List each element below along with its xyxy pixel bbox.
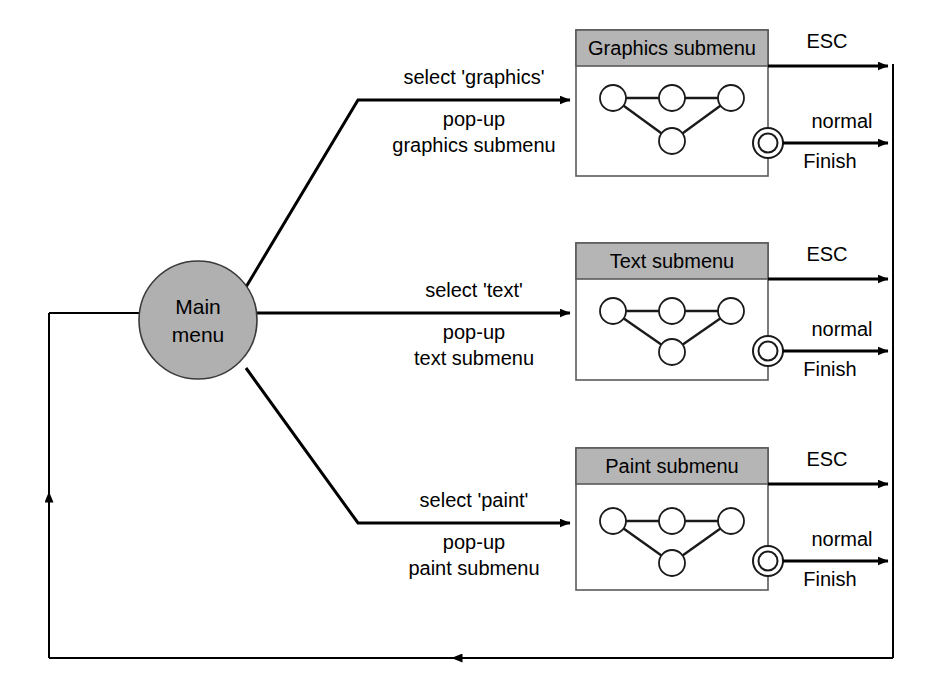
transition-trigger-graphics: select 'graphics' bbox=[403, 66, 544, 88]
inner-node-2 bbox=[659, 508, 685, 534]
normal-label-text: normal bbox=[811, 318, 872, 340]
transition-trigger-text: select 'text' bbox=[425, 279, 523, 301]
text-submenu-title: Text submenu bbox=[610, 250, 735, 272]
paint-submenu-title: Paint submenu bbox=[605, 455, 738, 477]
transition-action-paint-line1: pop-up bbox=[443, 531, 505, 553]
transition-line-graphics bbox=[246, 100, 570, 287]
diagram-canvas: select 'graphics' pop-up graphics submen… bbox=[0, 0, 938, 695]
transition-action-text-line1: pop-up bbox=[443, 321, 505, 343]
final-state-inner-text bbox=[759, 342, 778, 361]
finish-label-text: Finish bbox=[803, 358, 856, 380]
graphics-submenu-title: Graphics submenu bbox=[588, 37, 756, 59]
main-menu-circle[interactable] bbox=[139, 261, 257, 379]
esc-label-text: ESC bbox=[806, 243, 847, 265]
inner-node-4 bbox=[659, 550, 685, 576]
statechart-diagram: select 'graphics' pop-up graphics submen… bbox=[0, 0, 938, 695]
inner-node-1 bbox=[600, 298, 626, 324]
esc-label-paint: ESC bbox=[806, 448, 847, 470]
final-state-inner-paint bbox=[759, 552, 778, 571]
normal-label-paint: normal bbox=[811, 528, 872, 550]
finish-label-graphics: Finish bbox=[803, 150, 856, 172]
transition-action-text-line2: text submenu bbox=[414, 347, 534, 369]
branch-graphics: select 'graphics' pop-up graphics submen… bbox=[246, 30, 888, 287]
inner-node-1 bbox=[600, 508, 626, 534]
final-state-inner-graphics bbox=[759, 134, 778, 153]
normal-label-graphics: normal bbox=[811, 110, 872, 132]
inner-node-1 bbox=[600, 85, 626, 111]
inner-node-2 bbox=[659, 85, 685, 111]
transition-action-paint-line2: paint submenu bbox=[408, 557, 539, 579]
inner-node-3 bbox=[718, 85, 744, 111]
transition-trigger-paint: select 'paint' bbox=[420, 489, 529, 511]
finish-label-paint: Finish bbox=[803, 568, 856, 590]
inner-node-2 bbox=[659, 298, 685, 324]
inner-node-3 bbox=[718, 298, 744, 324]
esc-label-graphics: ESC bbox=[806, 30, 847, 52]
inner-node-4 bbox=[659, 339, 685, 365]
main-menu-label-line2: menu bbox=[172, 323, 225, 346]
inner-node-4 bbox=[659, 128, 685, 154]
transition-action-graphics-line1: pop-up bbox=[443, 108, 505, 130]
transition-action-graphics-line2: graphics submenu bbox=[392, 134, 555, 156]
main-menu-label-line1: Main bbox=[175, 295, 221, 318]
inner-node-3 bbox=[718, 508, 744, 534]
branch-text: select 'text' pop-up text submenu Text s… bbox=[256, 243, 888, 380]
branch-paint: select 'paint' pop-up paint submenu Pain… bbox=[246, 368, 888, 590]
main-menu-state[interactable]: Main menu bbox=[139, 261, 257, 379]
